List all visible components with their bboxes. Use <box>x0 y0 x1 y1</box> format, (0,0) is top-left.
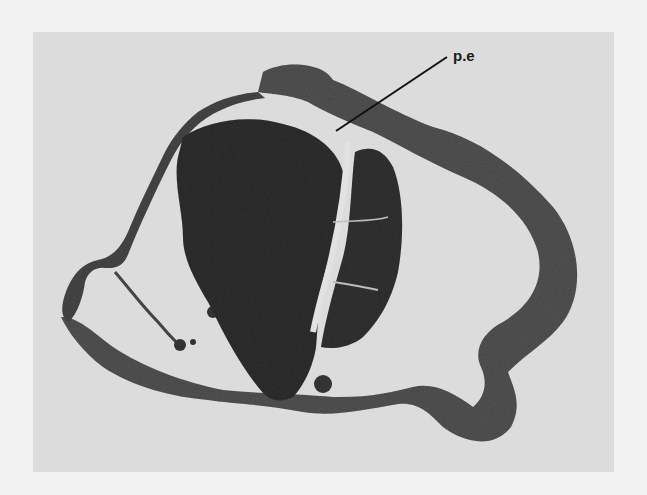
label-pe: p.e <box>453 48 475 63</box>
micrograph-plate <box>33 32 614 472</box>
tissue-section-illustration <box>33 32 614 472</box>
inner-strand <box>115 272 178 344</box>
dense-mass-left <box>177 119 344 400</box>
